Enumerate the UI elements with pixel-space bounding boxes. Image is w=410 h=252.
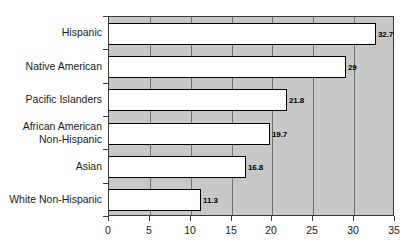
- category-label: Native American: [26, 60, 102, 73]
- bar: 32.7: [109, 23, 376, 45]
- x-axis-tick: [353, 216, 354, 221]
- bar: 11.3: [109, 189, 201, 211]
- category-label: Asian: [76, 160, 102, 173]
- x-axis-tick: [394, 216, 395, 221]
- x-axis-tick: [190, 216, 191, 221]
- y-axis-tick: [103, 16, 108, 17]
- category-label-line: Asian: [76, 160, 102, 173]
- x-axis-tick-label: 20: [265, 224, 277, 236]
- bar-row: 21.8: [109, 84, 393, 117]
- category-label-line: White Non-Hispanic: [9, 193, 102, 206]
- bar: 21.8: [109, 89, 287, 111]
- category-label: African AmericanNon-Hispanic: [23, 120, 102, 145]
- category-label: White Non-Hispanic: [9, 193, 102, 206]
- x-axis-tick: [271, 216, 272, 221]
- bar-row: 32.7: [109, 17, 393, 50]
- category-label: Hispanic: [62, 26, 102, 39]
- category-label: Pacific Islanders: [26, 93, 102, 106]
- bar-value-label: 11.3: [203, 196, 218, 205]
- bar-row: 16.8: [109, 150, 393, 183]
- category-label-line: Hispanic: [62, 26, 102, 39]
- bar-value-label: 19.7: [272, 129, 287, 138]
- category-label-line: Native American: [26, 60, 102, 73]
- x-axis-tick-label: 0: [105, 224, 111, 236]
- category-label-line: Pacific Islanders: [26, 93, 102, 106]
- category-label-line: Non-Hispanic: [23, 133, 102, 146]
- x-axis-tick-label: 35: [388, 224, 400, 236]
- bar: 29: [109, 56, 346, 78]
- bar-value-label: 21.8: [289, 96, 304, 105]
- bar-row: 29: [109, 50, 393, 83]
- category-label-line: African American: [23, 120, 102, 133]
- y-axis-tick: [103, 116, 108, 117]
- x-axis-tick: [108, 216, 109, 221]
- bar: 19.7: [109, 123, 270, 145]
- bar-chart: 32.72921.819.716.811.3 HispanicNative Am…: [0, 0, 410, 252]
- bar-value-label: 32.7: [378, 29, 393, 38]
- x-axis-tick: [312, 216, 313, 221]
- x-axis-tick: [149, 216, 150, 221]
- y-axis-tick: [103, 183, 108, 184]
- x-axis-tick-label: 25: [306, 224, 318, 236]
- bar-value-label: 16.8: [248, 162, 263, 171]
- x-axis-tick-label: 30: [347, 224, 359, 236]
- y-axis-tick: [103, 83, 108, 84]
- bar: 16.8: [109, 156, 246, 178]
- y-axis-tick: [103, 149, 108, 150]
- y-axis-tick: [103, 49, 108, 50]
- x-axis-tick-label: 5: [146, 224, 152, 236]
- plot-area: 32.72921.819.716.811.3: [108, 16, 394, 216]
- x-axis-tick-label: 10: [184, 224, 196, 236]
- bar-row: 19.7: [109, 117, 393, 150]
- bar-row: 11.3: [109, 184, 393, 217]
- bar-value-label: 29: [348, 62, 357, 71]
- x-axis-tick: [231, 216, 232, 221]
- x-axis-tick-label: 15: [225, 224, 237, 236]
